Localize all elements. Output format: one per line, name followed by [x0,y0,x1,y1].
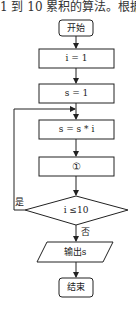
init-i-node-label: i = 1 [39,49,114,68]
condition-node-label: i ≤10 [40,202,112,218]
output-node-label: 输出s [40,242,110,262]
no-edge-label: 否 [81,228,90,237]
end-node-label: 结束 [59,278,93,297]
init-s-node-label: s = 1 [39,84,114,103]
multiply-node-label: s = s * i [39,120,114,139]
yes-edge-label: 是 [15,198,24,207]
start-node-label: 开始 [59,20,93,36]
step1-node-label: ① [39,157,114,176]
